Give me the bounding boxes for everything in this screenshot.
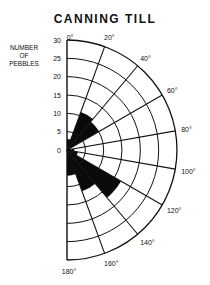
radial-tick-label: 0 [57,147,61,154]
radial-tick-label: 15 [53,92,61,99]
angle-label: 40° [140,55,151,62]
angle-label: 80° [181,126,192,133]
grid-ring [67,58,159,241]
radial-tick-label: 20 [53,73,61,80]
radial-tick-label: 5 [57,128,61,135]
angle-label: 0° [67,34,74,41]
radial-tick-label: 10 [53,110,61,117]
rose-diagram: 0510152025300°20°40°60°80°100°120°140°16… [0,0,210,285]
angle-label: 20° [104,34,115,41]
angle-label: 60° [167,87,178,94]
angle-label: 100° [181,168,196,175]
angle-label: 180° [62,268,77,275]
radial-tick-label: 25 [53,55,61,62]
radial-tick-label: 30 [53,37,61,44]
angle-label: 140° [140,239,155,246]
angle-label: 160° [104,260,119,267]
angle-label: 120° [167,207,182,214]
